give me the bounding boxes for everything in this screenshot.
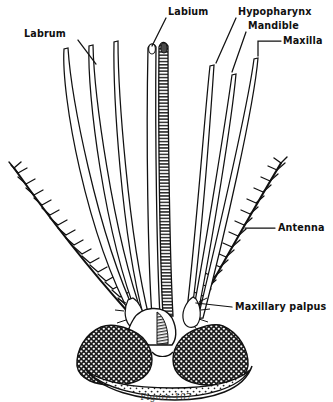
label-mandible: Mandible xyxy=(248,20,299,31)
figure-caption: Figure 107 xyxy=(140,392,192,402)
anatomical-illustration: Labrum Labium Hypopharynx Mandible Maxil… xyxy=(0,0,333,402)
label-antenna: Antenna xyxy=(278,222,325,233)
label-maxillary-palpus: Maxillary palpus xyxy=(235,301,326,312)
label-labrum: Labrum xyxy=(24,28,66,39)
label-labium: Labium xyxy=(168,6,208,17)
label-hypopharynx: Hypopharynx xyxy=(238,6,312,17)
figure-root: Labrum Labium Hypopharynx Mandible Maxil… xyxy=(0,0,333,402)
label-maxilla: Maxilla xyxy=(283,35,323,46)
